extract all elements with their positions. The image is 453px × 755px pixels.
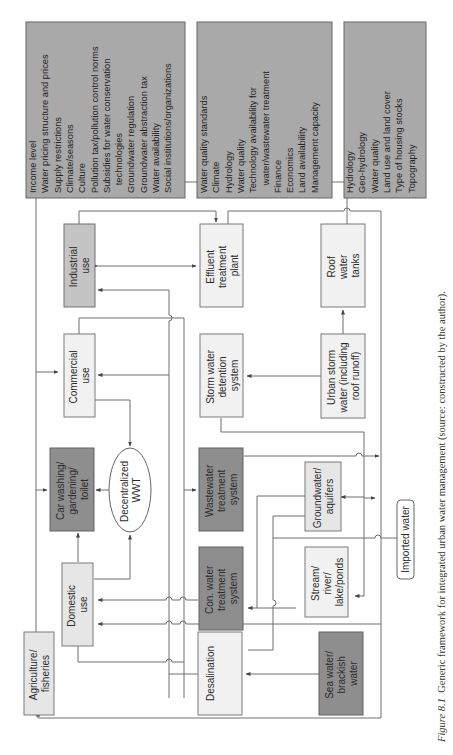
node-domestic-use: Domestic use xyxy=(62,563,93,646)
figure-label: Figure 8.1 xyxy=(436,698,447,743)
factor-box-physical: Hydrology Geo-hydrology Water quality La… xyxy=(344,22,426,198)
node-sea-water-brackish-water: Sea water/ brackish water xyxy=(319,632,363,715)
figure-caption: Figure 8.1 Generic framework for integra… xyxy=(436,291,448,743)
factor-box-socio-economic: Income level Water pricing structure and… xyxy=(26,22,185,198)
node-industrial-use: Industrial use xyxy=(64,224,95,307)
node-storm-water-detention-system: Storm water detention system xyxy=(200,334,243,417)
node-con-water-treatment-system: Con. water treatment system xyxy=(199,547,243,630)
svg-text:Imported water: Imported water xyxy=(400,505,411,572)
node-effluent-treatment-plant: Effluent treatment plant xyxy=(200,224,243,307)
node-car-washing-gardening-toilet: Car washing/ gardening/ toilet xyxy=(50,448,94,531)
node-agriculture-fisheries: Agriculture/ fisheries xyxy=(24,632,54,715)
iuwm-framework-diagram: Income level Water pricing structure and… xyxy=(0,0,453,755)
factor-box-technical: Water quality standards Climate Hydrolog… xyxy=(197,22,332,198)
caption-text: Generic framework for integrated urban w… xyxy=(436,291,448,698)
node-commercial-use: Commercial use xyxy=(64,334,95,417)
node-decentralized-wwt: Decentralized WWT xyxy=(109,448,151,532)
node-roof-water-tanks: Roof water tanks xyxy=(321,224,365,307)
node-urban-storm-water: Urban storm water (including roof runoff… xyxy=(321,334,365,418)
svg-text:Desalination: Desalination xyxy=(205,646,216,701)
svg-text:Roof water tanks: Roof water tanks xyxy=(326,252,361,280)
node-wastewater-treatment-system: Wastewater treatment system xyxy=(199,448,243,531)
node-imported-water: Imported water xyxy=(397,500,414,579)
node-stream-river-lake-ponds: Stream/ river/ lake/ponds xyxy=(305,547,348,617)
node-groundwater-aquifers: Groundwater/ aquifers xyxy=(305,462,341,531)
node-desalination: Desalination xyxy=(198,632,242,715)
